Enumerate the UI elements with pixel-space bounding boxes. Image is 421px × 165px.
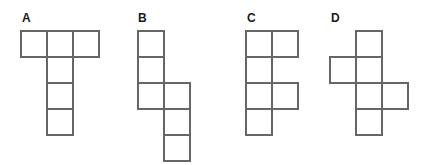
shape-cell <box>73 31 99 57</box>
shape-cell <box>138 83 164 109</box>
shape-cell <box>272 31 298 57</box>
shape-grid-a <box>19 29 101 137</box>
shape-cell <box>246 109 272 135</box>
shape-cell <box>330 57 356 83</box>
shape-cell <box>164 135 190 161</box>
shape-grid-b <box>136 29 192 163</box>
shape-grid-d <box>328 29 410 137</box>
shape-label-c: C <box>247 12 256 24</box>
shape-cell <box>246 57 272 83</box>
shape-label-d: D <box>331 12 340 24</box>
shape-cell <box>164 109 190 135</box>
shape-cell <box>47 57 73 83</box>
shape-cell <box>356 109 382 135</box>
shape-label-b: B <box>138 12 147 24</box>
shape-grid-c <box>244 29 300 137</box>
shape-cell <box>272 83 298 109</box>
shape-cell <box>356 57 382 83</box>
shape-cell <box>356 83 382 109</box>
shape-cell <box>47 83 73 109</box>
shape-cell <box>246 31 272 57</box>
shape-cell <box>21 31 47 57</box>
shape-figure: ABCD <box>0 0 421 165</box>
shape-cell <box>356 31 382 57</box>
shape-cell <box>382 83 408 109</box>
shape-cell <box>138 31 164 57</box>
shape-cell <box>246 83 272 109</box>
shape-label-a: A <box>22 12 31 24</box>
shape-cell <box>47 109 73 135</box>
shape-cell <box>138 57 164 83</box>
shape-cell <box>47 31 73 57</box>
shape-cell <box>164 83 190 109</box>
